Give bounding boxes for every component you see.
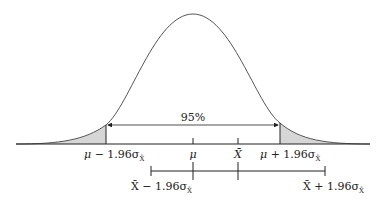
xbar-label: X̄ bbox=[233, 148, 243, 161]
lower-bound-label: μ − 1.96σX̄ bbox=[84, 148, 144, 163]
normal-distribution-diagram: 95% μ − 1.96σX̄ μ X̄ μ + 1.96σX̄ X̄ − 1.… bbox=[0, 0, 387, 203]
upper-bound-label: μ + 1.96σX̄ bbox=[260, 148, 320, 163]
right-tail-region bbox=[280, 123, 370, 144]
95-percent-label: 95% bbox=[181, 111, 205, 124]
interval-upper-label: X̄ + 1.96σX̄ bbox=[303, 180, 364, 195]
bell-curve bbox=[16, 14, 370, 144]
interval-lower-label: X̄ − 1.96σX̄ bbox=[131, 180, 192, 195]
mu-label: μ bbox=[189, 148, 196, 161]
